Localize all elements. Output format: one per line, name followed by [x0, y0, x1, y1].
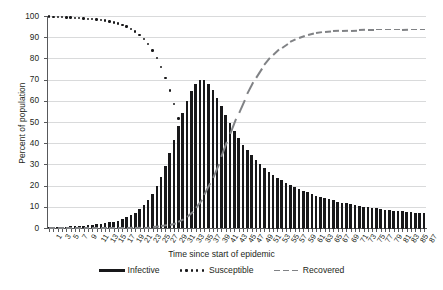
- bar-infective: [134, 213, 137, 228]
- point-susceptible: [160, 66, 162, 68]
- legend-label-susceptible: Susceptible: [209, 265, 253, 275]
- bar-infective: [345, 203, 348, 228]
- x-tick-mark: [114, 229, 115, 232]
- x-tick-mark: [329, 229, 330, 232]
- x-tick-mark: [308, 229, 309, 232]
- segment-recovered: [333, 30, 339, 32]
- x-tick-mark: [269, 229, 270, 232]
- x-tick-mark: [53, 229, 54, 232]
- x-tick-mark: [402, 229, 403, 232]
- bar-infective: [293, 187, 296, 228]
- point-susceptible: [177, 117, 179, 119]
- x-tick-mark: [415, 229, 416, 232]
- sir-epidemic-chart: Percent of population 010203040506070809…: [0, 0, 443, 290]
- point-susceptible: [212, 205, 214, 207]
- point-susceptible: [151, 49, 153, 51]
- bar-infective: [418, 213, 421, 228]
- point-susceptible: [65, 16, 67, 18]
- x-tick-mark: [346, 229, 347, 232]
- legend-label-infective: Infective: [128, 265, 160, 275]
- segment-recovered: [368, 29, 374, 31]
- x-tick-mark: [234, 229, 235, 232]
- point-susceptible: [173, 103, 175, 105]
- bar-infective: [285, 183, 288, 228]
- bar-infective: [315, 196, 318, 228]
- x-tick-mark: [226, 229, 227, 232]
- segment-recovered: [359, 29, 365, 31]
- y-tick-label: 20: [13, 181, 39, 189]
- bar-infective: [177, 126, 180, 228]
- x-tick-mark: [66, 229, 67, 232]
- x-tick-mark: [187, 229, 188, 232]
- bar-infective: [250, 155, 253, 228]
- x-tick-mark: [239, 229, 240, 232]
- gridline: [47, 37, 426, 38]
- segment-recovered: [394, 29, 400, 31]
- x-tick-mark: [58, 229, 59, 232]
- segment-recovered: [420, 29, 426, 31]
- legend-label-recovered: Recovered: [303, 265, 345, 275]
- segment-recovered: [307, 33, 313, 36]
- bar-infective: [224, 115, 227, 228]
- x-tick-mark: [389, 229, 390, 232]
- bar-infective: [379, 209, 382, 228]
- segment-recovered: [351, 29, 357, 31]
- x-tick-mark: [247, 229, 248, 232]
- point-susceptible: [242, 223, 244, 225]
- x-tick-mark: [407, 229, 408, 232]
- bar-infective: [298, 189, 301, 228]
- bar-infective: [323, 198, 326, 228]
- y-tick-label: 50: [13, 118, 39, 126]
- point-susceptible: [229, 219, 231, 221]
- y-tick-label: 10: [13, 202, 39, 210]
- x-tick-mark: [122, 229, 123, 232]
- point-susceptible: [143, 38, 145, 40]
- point-susceptible: [199, 183, 201, 185]
- point-susceptible: [82, 17, 84, 19]
- x-tick-mark: [200, 229, 201, 232]
- x-tick-mark: [196, 229, 197, 232]
- x-tick-mark: [75, 229, 76, 232]
- bar-infective: [138, 209, 141, 228]
- x-tick-mark: [368, 229, 369, 232]
- x-tick-mark: [101, 229, 102, 232]
- bar-infective: [384, 210, 387, 228]
- point-susceptible: [117, 22, 119, 24]
- bar-infective: [229, 123, 232, 228]
- bar-infective: [255, 160, 258, 228]
- y-tick-label: 80: [13, 54, 39, 62]
- x-tick-mark: [385, 229, 386, 232]
- x-tick-mark: [273, 229, 274, 232]
- gridline: [47, 58, 426, 59]
- x-tick-mark: [148, 229, 149, 232]
- segment-recovered: [411, 29, 417, 31]
- x-tick-mark: [316, 229, 317, 232]
- y-tick-label: 60: [13, 96, 39, 104]
- x-tick-mark: [49, 229, 50, 232]
- bar-infective: [358, 206, 361, 228]
- bar-infective: [272, 175, 275, 228]
- x-tick-mark: [62, 229, 63, 232]
- bar-infective: [423, 213, 426, 228]
- x-tick-mark: [127, 229, 128, 232]
- x-tick-mark: [342, 229, 343, 232]
- segment-recovered: [247, 82, 254, 94]
- bar-infective: [246, 150, 249, 228]
- x-tick-mark: [97, 229, 98, 232]
- bar-infective: [203, 80, 206, 228]
- x-tick-mark: [364, 229, 365, 232]
- bar-infective: [397, 211, 400, 228]
- gridline: [47, 122, 426, 123]
- point-susceptible: [100, 19, 102, 21]
- x-tick-mark: [295, 229, 296, 232]
- bar-infective: [302, 191, 305, 228]
- x-tick-mark: [165, 229, 166, 232]
- point-susceptible: [87, 18, 89, 20]
- x-tick-mark: [252, 229, 253, 232]
- x-tick-mark: [71, 229, 72, 232]
- bar-infective: [186, 101, 189, 228]
- x-tick-mark: [204, 229, 205, 232]
- bar-infective: [354, 205, 357, 228]
- bar-infective: [328, 199, 331, 228]
- x-tick-mark: [320, 229, 321, 232]
